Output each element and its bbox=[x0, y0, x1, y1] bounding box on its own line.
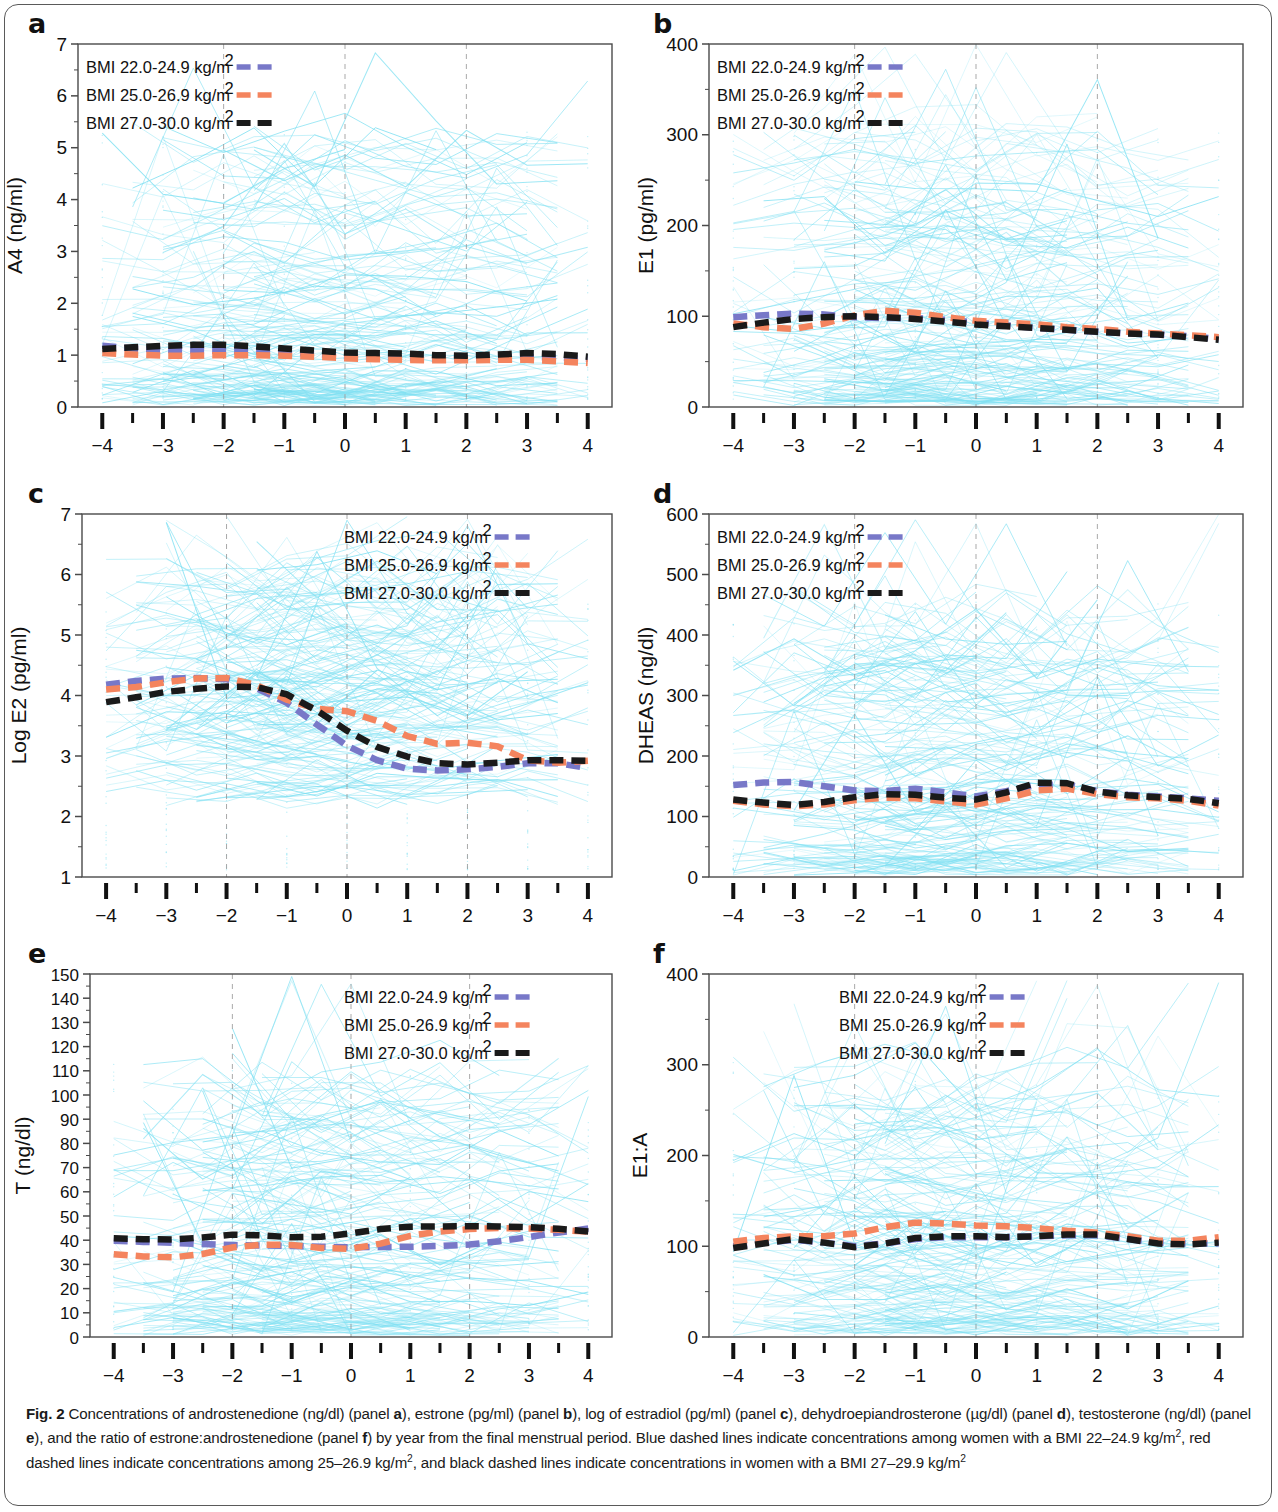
legend-label: BMI 22.0-24.9 kg/m bbox=[344, 988, 488, 1006]
y-axis-label-a: A4 (ng/ml) bbox=[3, 177, 26, 274]
legend-label: BMI 25.0-26.9 kg/m bbox=[344, 1016, 488, 1034]
y-tick-label: 100 bbox=[666, 806, 698, 827]
y-tick-label: 120 bbox=[51, 1038, 79, 1057]
y-tick-label: 80 bbox=[60, 1135, 79, 1154]
legend-label-superscript: 2 bbox=[856, 521, 865, 539]
panel-grid: a01234567−4−3−2−101234Number of years fr… bbox=[0, 0, 1278, 1380]
caption-run: , and black dashed lines indicate concen… bbox=[413, 1454, 960, 1471]
chart-c: 1234567−4−3−2−101234Number of years from… bbox=[0, 470, 640, 940]
x-tick-label: 2 bbox=[462, 905, 473, 926]
y-tick-label: 0 bbox=[687, 1327, 698, 1348]
x-tick-label: 1 bbox=[1031, 905, 1042, 926]
y-tick-label: 300 bbox=[666, 124, 698, 145]
y-tick-label: 0 bbox=[687, 867, 698, 888]
y-tick-label: 6 bbox=[60, 564, 71, 585]
y-tick-label: 60 bbox=[60, 1183, 79, 1202]
legend-label: BMI 27.0-30.0 kg/m bbox=[86, 114, 230, 132]
panel-c: c1234567−4−3−2−101234Number of years fro… bbox=[0, 470, 640, 940]
legend-label-superscript: 2 bbox=[483, 549, 492, 567]
legend-label: BMI 25.0-26.9 kg/m bbox=[839, 1016, 983, 1034]
x-tick-label: 1 bbox=[400, 435, 411, 456]
x-tick-label: 1 bbox=[1031, 435, 1042, 456]
y-tick-label: 1 bbox=[60, 867, 71, 888]
y-tick-label: 2 bbox=[56, 293, 67, 314]
y-tick-label: 100 bbox=[51, 1087, 79, 1106]
x-tick-label: 0 bbox=[342, 905, 353, 926]
y-tick-label: 7 bbox=[56, 34, 67, 55]
x-tick-label: 0 bbox=[971, 435, 982, 456]
x-tick-label: −1 bbox=[276, 905, 298, 926]
y-tick-label: 90 bbox=[60, 1111, 79, 1130]
x-tick-label: −1 bbox=[904, 1365, 926, 1386]
y-tick-label: 100 bbox=[666, 306, 698, 327]
y-tick-label: 70 bbox=[60, 1159, 79, 1178]
x-tick-label: 2 bbox=[1092, 435, 1103, 456]
x-tick-label: 2 bbox=[1092, 905, 1103, 926]
panel-f: f0100200300400−4−3−2−101234Number of yea… bbox=[625, 930, 1265, 1400]
legend-label-superscript: 2 bbox=[856, 51, 865, 69]
y-tick-label: 3 bbox=[56, 241, 67, 262]
y-tick-label: 200 bbox=[666, 1145, 698, 1166]
panel-a: a01234567−4−3−2−101234Number of years fr… bbox=[0, 0, 640, 470]
y-tick-label: 5 bbox=[60, 625, 71, 646]
x-tick-label: 4 bbox=[583, 1365, 594, 1386]
caption-run: ) by year from the final menstrual perio… bbox=[367, 1429, 1175, 1446]
caption-run: e bbox=[26, 1429, 34, 1446]
y-tick-label: 500 bbox=[666, 564, 698, 585]
x-tick-label: 3 bbox=[1153, 435, 1164, 456]
legend-label-superscript: 2 bbox=[483, 981, 492, 999]
x-axis-label-f: Number of years from FMP bbox=[849, 1396, 1102, 1400]
x-tick-label: 0 bbox=[346, 1365, 357, 1386]
y-tick-label: 400 bbox=[666, 964, 698, 985]
caption-run: ), dehydroepiandrosterone (µg/dl) (panel bbox=[788, 1405, 1057, 1422]
x-tick-label: −1 bbox=[904, 905, 926, 926]
legend-label-superscript: 2 bbox=[978, 1009, 987, 1027]
y-axis-label-e: T (ng/dl) bbox=[11, 1117, 34, 1195]
x-tick-label: −4 bbox=[722, 435, 744, 456]
y-axis-label-c: Log E2 (pg/ml) bbox=[7, 627, 30, 765]
x-tick-label: −3 bbox=[783, 905, 805, 926]
y-tick-label: 4 bbox=[60, 685, 71, 706]
caption-run: ), testosterone (ng/dl) (panel bbox=[1066, 1405, 1251, 1422]
x-tick-label: 3 bbox=[522, 905, 533, 926]
x-tick-label: 3 bbox=[524, 1365, 535, 1386]
chart-e: 0102030405060708090100110120130140150−4−… bbox=[0, 930, 640, 1400]
legend-label-superscript: 2 bbox=[856, 577, 865, 595]
legend-label-superscript: 2 bbox=[483, 577, 492, 595]
y-tick-label: 200 bbox=[666, 215, 698, 236]
legend-label: BMI 25.0-26.9 kg/m bbox=[717, 556, 861, 574]
x-tick-label: −4 bbox=[95, 905, 117, 926]
x-tick-label: 2 bbox=[461, 435, 472, 456]
x-tick-label: 0 bbox=[340, 435, 351, 456]
y-tick-label: 50 bbox=[60, 1208, 79, 1227]
legend-f: BMI 22.0-24.9 kg/m2BMI 25.0-26.9 kg/m2BM… bbox=[839, 981, 1025, 1062]
x-tick-label: 4 bbox=[582, 435, 593, 456]
legend-label-superscript: 2 bbox=[856, 107, 865, 125]
legend-label: BMI 25.0-26.9 kg/m bbox=[86, 86, 230, 104]
x-tick-label: −1 bbox=[273, 435, 295, 456]
caption-run: ), log of estradiol (pg/ml) (panel bbox=[572, 1405, 780, 1422]
y-tick-label: 4 bbox=[56, 189, 67, 210]
x-tick-label: −2 bbox=[844, 905, 866, 926]
x-tick-label: 4 bbox=[1213, 1365, 1224, 1386]
x-tick-label: 1 bbox=[1031, 1365, 1042, 1386]
x-tick-label: 3 bbox=[1153, 905, 1164, 926]
x-tick-label: −2 bbox=[844, 435, 866, 456]
chart-f: 0100200300400−4−3−2−101234Number of year… bbox=[625, 930, 1265, 1400]
x-tick-label: −4 bbox=[722, 1365, 744, 1386]
y-tick-label: 10 bbox=[60, 1304, 79, 1323]
legend-a: BMI 22.0-24.9 kg/m2BMI 25.0-26.9 kg/m2BM… bbox=[86, 51, 272, 132]
y-axis-label-f: E1:A bbox=[628, 1133, 651, 1179]
y-tick-label: 2 bbox=[60, 806, 71, 827]
x-tick-label: −4 bbox=[103, 1365, 125, 1386]
legend-label: BMI 22.0-24.9 kg/m bbox=[344, 528, 488, 546]
legend-label-superscript: 2 bbox=[856, 79, 865, 97]
y-tick-label: 110 bbox=[52, 1062, 79, 1081]
legend-label-superscript: 2 bbox=[225, 79, 234, 97]
caption-run: Fig. 2 bbox=[26, 1405, 65, 1422]
caption-run: ), estrone (pg/ml) (panel bbox=[402, 1405, 563, 1422]
x-tick-label: −2 bbox=[216, 905, 238, 926]
y-tick-label: 600 bbox=[666, 504, 698, 525]
x-tick-label: 3 bbox=[1153, 1365, 1164, 1386]
x-tick-label: 3 bbox=[522, 435, 533, 456]
